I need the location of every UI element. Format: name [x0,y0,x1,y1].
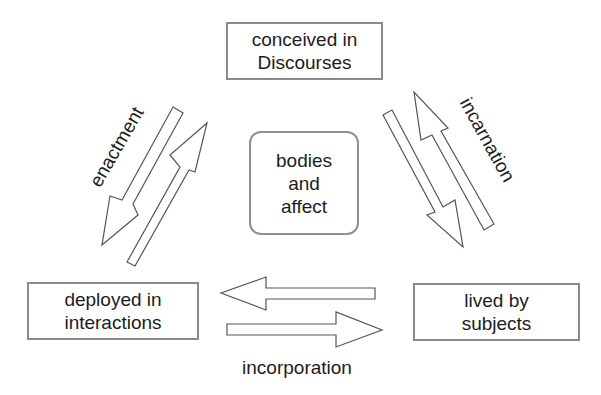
node-line: conceived in [252,28,358,51]
node-line: subjects [462,312,532,335]
node-line: affect [281,195,327,218]
node-line: deployed in [64,288,161,311]
node-conceived-in-discourses: conceived in Discourses [226,22,383,80]
node-line: Discourses [258,51,352,74]
arrow-incorporation-right [227,312,382,347]
node-bodies-and-affect: bodies and affect [249,131,359,235]
node-lived-by-subjects: lived by subjects [413,283,580,341]
node-deployed-in-interactions: deployed in interactions [27,282,199,340]
edge-label-incorporation: incorporation [236,357,358,379]
node-line: interactions [64,311,161,334]
node-line: lived by [464,289,528,312]
arrow-incorporation-left [221,277,375,310]
node-line: and [288,172,320,195]
node-line: bodies [276,149,332,172]
arrow-enactment-up [127,123,207,266]
